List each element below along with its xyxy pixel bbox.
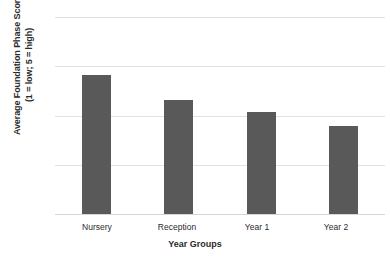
- x-tick-label-reception: Reception: [132, 222, 222, 232]
- gridline-4: [55, 66, 385, 67]
- bar-year-1: [247, 112, 276, 214]
- gridline-1: [55, 214, 385, 215]
- y-axis-title-line1: Average Foundation Phase Score: [11, 0, 23, 135]
- x-axis-title: Year Groups: [0, 239, 390, 249]
- bar-reception: [164, 100, 193, 214]
- plot-area: 12345: [55, 17, 385, 214]
- bar-year-2: [329, 126, 358, 214]
- gridline-5: [55, 17, 385, 18]
- x-tick-label-year-1: Year 1: [212, 222, 302, 232]
- y-axis-title: Average Foundation Phase Score (1 = low;…: [6, 0, 40, 140]
- bar-nursery: [82, 75, 111, 214]
- bar-chart: Average Foundation Phase Score (1 = low;…: [0, 0, 390, 261]
- y-axis-title-line2: (1 = low; 5 = high): [23, 28, 35, 102]
- x-tick-label-year-2: Year 2: [291, 222, 381, 232]
- x-tick-label-nursery: Nursery: [52, 222, 142, 232]
